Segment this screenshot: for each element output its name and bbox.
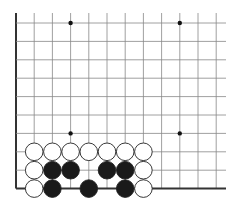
black-stone[interactable] — [116, 180, 134, 198]
white-stone[interactable] — [80, 143, 98, 161]
black-stone[interactable] — [80, 180, 98, 198]
star-point — [68, 21, 72, 25]
white-stone[interactable] — [25, 180, 43, 198]
white-stone[interactable] — [135, 143, 153, 161]
star-point — [68, 131, 72, 135]
black-stone[interactable] — [44, 161, 62, 179]
black-stone[interactable] — [98, 161, 116, 179]
star-point — [178, 21, 182, 25]
white-stone[interactable] — [62, 143, 80, 161]
black-stone[interactable] — [62, 161, 80, 179]
white-stone[interactable] — [25, 161, 43, 179]
white-stone[interactable] — [135, 180, 153, 198]
star-point — [178, 131, 182, 135]
black-stone[interactable] — [116, 161, 134, 179]
go-board[interactable] — [0, 0, 237, 211]
white-stone[interactable] — [25, 143, 43, 161]
white-stone[interactable] — [98, 143, 116, 161]
white-stone[interactable] — [135, 161, 153, 179]
white-stone[interactable] — [116, 143, 134, 161]
black-stone[interactable] — [44, 180, 62, 198]
white-stone[interactable] — [44, 143, 62, 161]
